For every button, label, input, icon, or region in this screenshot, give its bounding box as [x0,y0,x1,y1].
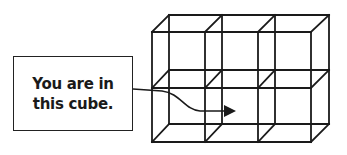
callout-label-box: You are in this cube. [13,56,133,131]
cube-grid [152,15,329,142]
front-face [152,32,311,142]
callout-line-2: this cube. [33,94,113,114]
arrowhead-icon [224,105,236,117]
callout-line-1: You are in [32,74,113,94]
depth-edges [152,15,329,142]
pointer-arrow [133,89,236,117]
